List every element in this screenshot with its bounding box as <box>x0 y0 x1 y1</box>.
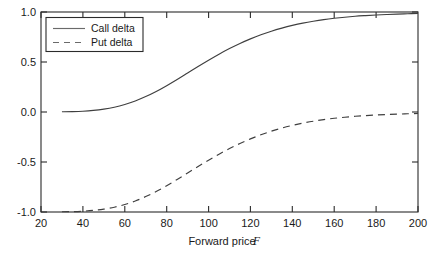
x-tick-label: 140 <box>283 217 301 229</box>
x-tick-label: 200 <box>409 217 427 229</box>
x-tick-label: 180 <box>367 217 385 229</box>
x-tick-label: 100 <box>199 217 217 229</box>
x-tick-label: 60 <box>119 217 131 229</box>
legend-label-call: Call delta <box>91 22 135 34</box>
x-tick-label: 80 <box>161 217 173 229</box>
x-tick-label: 120 <box>241 217 259 229</box>
y-tick-label: -1.0 <box>17 206 36 218</box>
chart-figure: 1.0 0.5 0.0 -0.5 -1.0 20 40 60 80 100 12… <box>0 0 433 259</box>
x-axis-title-text: Forward price <box>188 235 255 247</box>
x-axis-title-symbol: F <box>252 235 261 247</box>
delta-line-chart: 1.0 0.5 0.0 -0.5 -1.0 20 40 60 80 100 12… <box>0 0 433 259</box>
y-tick-label: 1.0 <box>21 6 36 18</box>
x-axis-title: Forward price F <box>188 235 261 247</box>
x-tick-label: 160 <box>325 217 343 229</box>
legend: Call delta Put delta <box>46 18 143 52</box>
y-tick-label: -0.5 <box>17 156 36 168</box>
x-tick-label: 40 <box>77 217 89 229</box>
y-tick-label: 0.5 <box>21 56 36 68</box>
x-tick-label: 20 <box>35 217 47 229</box>
y-tick-label: 0.0 <box>21 106 36 118</box>
legend-label-put: Put delta <box>91 36 133 48</box>
